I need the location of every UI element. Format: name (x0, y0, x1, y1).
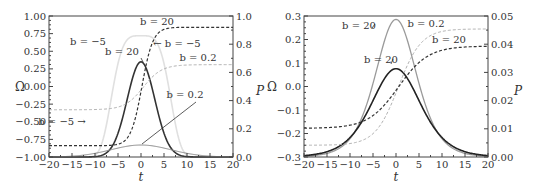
annotation-label: b = −5 → (38, 116, 86, 127)
y-tick-label: 0.75 (24, 28, 46, 39)
x-axis-label: t (139, 170, 144, 184)
series-line (304, 69, 488, 156)
y-tick-label: 0.3 (285, 11, 301, 22)
y-right-axis-label: P (255, 84, 265, 98)
y-right-tick-label: 0.03 (491, 67, 513, 78)
y-right-tick-label: 0.0 (236, 152, 252, 163)
y-right-tick-label: 0.02 (491, 95, 513, 106)
x-tick-label: 5 (416, 159, 422, 170)
y-right-tick-label: 0.6 (236, 67, 252, 78)
y-right-tick-label: 1.0 (236, 11, 252, 22)
y-tick-label: 0.2 (285, 34, 301, 45)
annotation-label: ← b = −5 (153, 38, 200, 49)
x-tick-label: 15 (459, 159, 472, 170)
y-right-tick-label: 0.04 (491, 39, 513, 50)
left-plot: −20−15−10−5051015201.000.750.500.250.00−… (15, 11, 265, 185)
y-right-tick-label: 0.00 (491, 152, 513, 163)
y-tick-label: 0.0 (285, 81, 301, 92)
x-tick-label: −15 (61, 159, 82, 170)
x-tick-label: 10 (436, 159, 449, 170)
y-tick-label: 1.00 (24, 11, 46, 22)
y-axis-label: Ω (15, 80, 25, 94)
x-tick-label: 0 (393, 159, 399, 170)
y-tick-label: 0.25 (24, 63, 46, 74)
y-right-tick-label: 0.4 (236, 95, 252, 106)
annotation-label: b = 20 (105, 46, 139, 57)
y-right-axis-label: P (513, 84, 523, 98)
y-right-tick-label: 0.8 (236, 39, 252, 50)
figure: −20−15−10−5051015201.000.750.500.250.00−… (0, 0, 533, 195)
y-right-tick-label: 0.05 (491, 11, 513, 22)
y-tick-label: −1.00 (15, 152, 46, 163)
y-tick-label: −0.1 (277, 105, 301, 116)
annotation-label: b = 0.2 (179, 52, 216, 63)
x-tick-label: −15 (316, 159, 337, 170)
annotation-arrow (142, 102, 196, 144)
y-right-tick-label: 0.2 (236, 123, 252, 134)
annotation-label: b = 20 (140, 16, 174, 27)
annotation-label: b = −5 (70, 36, 106, 47)
y-tick-label: −0.25 (15, 99, 46, 110)
annotation-label: b = 20 (432, 34, 466, 45)
x-tick-label: −10 (339, 159, 360, 170)
x-axis-label: t (394, 170, 399, 184)
x-tick-label: −5 (366, 159, 381, 170)
x-tick-label: 5 (161, 159, 167, 170)
y-tick-label: −0.3 (277, 152, 301, 163)
x-tick-label: −10 (84, 159, 105, 170)
x-tick-label: 10 (181, 159, 194, 170)
annotation-label: b = 0.2 (407, 18, 444, 29)
x-tick-label: −5 (111, 159, 126, 170)
series-line (49, 65, 233, 110)
y-tick-label: 0.1 (285, 58, 301, 69)
y-tick-label: −0.75 (15, 134, 46, 145)
annotation-label: b = 0.2 (166, 89, 203, 100)
y-right-tick-label: 0.01 (491, 123, 513, 134)
y-tick-label: −0.2 (277, 128, 301, 139)
x-tick-label: 0 (138, 159, 144, 170)
y-axis-label: Ω (267, 80, 277, 94)
right-plot: −20−15−10−5051015200.30.20.10.0−0.1−0.2−… (267, 11, 523, 185)
y-tick-label: 0.50 (24, 46, 46, 57)
x-tick-label: 15 (204, 159, 217, 170)
y-tick-label: 0.00 (24, 81, 46, 92)
annotation-label: b = 20 (342, 20, 376, 31)
